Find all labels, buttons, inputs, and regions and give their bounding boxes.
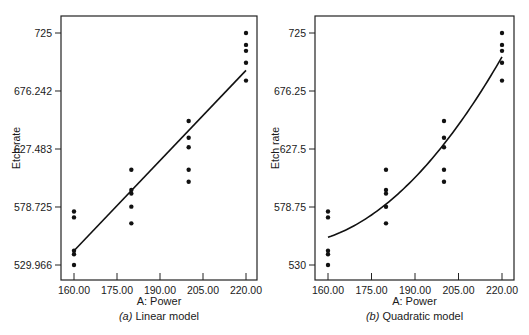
data-point bbox=[500, 49, 504, 53]
x-axis-label: A: Power bbox=[315, 295, 514, 307]
y-axis-label: Etch rate bbox=[269, 127, 281, 169]
panel-linear-model: 529.966578.725627.483676.242725160.00175… bbox=[0, 0, 264, 335]
caption-prefix: (a) bbox=[119, 310, 132, 322]
y-tick-label: 627.5 bbox=[280, 143, 306, 155]
data-point bbox=[186, 135, 190, 139]
caption-text: Linear model bbox=[135, 310, 199, 322]
y-tick-label: 676.25 bbox=[274, 85, 306, 97]
chart-caption: (b) Quadratic model bbox=[315, 310, 514, 322]
data-point bbox=[72, 215, 76, 219]
plot-frame bbox=[61, 16, 257, 280]
data-point bbox=[384, 221, 388, 225]
data-point bbox=[326, 215, 330, 219]
quadratic-model-chart: 530578.75627.5676.25725160.00175.00190.0… bbox=[264, 0, 529, 335]
data-point bbox=[244, 43, 248, 47]
data-point bbox=[500, 78, 504, 82]
data-point bbox=[244, 61, 248, 65]
data-point bbox=[129, 204, 133, 208]
data-point bbox=[244, 49, 248, 53]
data-point bbox=[72, 263, 76, 267]
y-tick-label: 676.242 bbox=[14, 85, 52, 97]
panel-quadratic-model: 530578.75627.5676.25725160.00175.00190.0… bbox=[264, 0, 529, 335]
data-point bbox=[442, 135, 446, 139]
data-point bbox=[326, 252, 330, 256]
data-point bbox=[186, 119, 190, 123]
fit-curve bbox=[328, 57, 502, 237]
data-point bbox=[186, 145, 190, 149]
data-point bbox=[72, 252, 76, 256]
y-tick-label: 529.966 bbox=[14, 259, 52, 271]
data-point bbox=[129, 191, 133, 195]
plot-frame bbox=[315, 16, 514, 280]
y-axis-label: Etch rate bbox=[10, 127, 22, 169]
data-point bbox=[500, 43, 504, 47]
data-point bbox=[186, 168, 190, 172]
data-point bbox=[442, 145, 446, 149]
data-point bbox=[500, 61, 504, 65]
x-axis-label: A: Power bbox=[61, 295, 257, 307]
caption-text: Quadratic model bbox=[382, 310, 463, 322]
y-tick-label: 530 bbox=[288, 259, 306, 271]
data-point bbox=[129, 221, 133, 225]
data-point bbox=[442, 180, 446, 184]
data-point bbox=[442, 119, 446, 123]
data-point bbox=[384, 205, 388, 209]
data-point bbox=[384, 191, 388, 195]
y-tick-label: 578.725 bbox=[14, 201, 52, 213]
y-tick-label: 578.75 bbox=[274, 201, 306, 213]
fit-line bbox=[74, 70, 246, 250]
y-tick-label: 725 bbox=[288, 27, 306, 39]
data-point bbox=[129, 168, 133, 172]
data-point bbox=[244, 78, 248, 82]
data-point bbox=[326, 263, 330, 267]
data-point bbox=[186, 179, 190, 183]
data-point bbox=[244, 31, 248, 35]
y-tick-label: 725 bbox=[34, 27, 52, 39]
data-point bbox=[500, 31, 504, 35]
caption-prefix: (b) bbox=[366, 310, 379, 322]
data-point bbox=[384, 168, 388, 172]
chart-caption: (a) Linear model bbox=[61, 310, 257, 322]
data-point bbox=[442, 168, 446, 172]
data-point bbox=[326, 209, 330, 213]
linear-model-chart: 529.966578.725627.483676.242725160.00175… bbox=[0, 0, 264, 335]
data-point bbox=[72, 209, 76, 213]
